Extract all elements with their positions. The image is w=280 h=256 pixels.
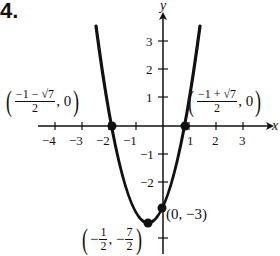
y-axis-label: y [160,0,166,14]
x-tick-label: 1 [187,134,194,147]
right-root-label: ( −1 + √7 2 , 0 ) [186,86,263,116]
left-root-point [108,122,117,131]
vertex-point [144,219,153,228]
x-tick-label: −3 [69,134,83,147]
right-root-point [181,122,190,131]
x-tick-label: −2 [96,134,110,147]
x-tick-label: −4 [42,134,56,147]
x-tick-label: 3 [239,134,246,147]
y-tick-label: 1 [146,91,153,104]
y-tick-label: −2 [140,176,154,189]
x-tick-label: 2 [212,134,219,147]
left-root-label: ( −1 − √7 2 , 0 ) [4,86,81,116]
x-axis-label: x [272,118,278,134]
y-tick-label: 3 [146,35,153,48]
y-tick-label: −1 [140,148,154,161]
graph-canvas [0,0,280,256]
y-intercept-label: (0, −3) [166,207,207,222]
y-tick-label: 2 [146,63,153,76]
x-tick-label: −1 [123,134,137,147]
vertex-label: ( − 1 2 , − 7 2 ) [80,224,144,254]
